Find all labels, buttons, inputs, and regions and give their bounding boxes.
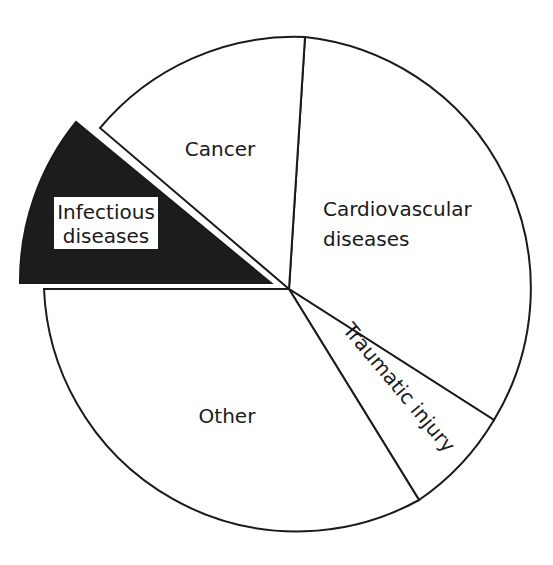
- label-other: Other: [199, 404, 257, 428]
- label-cancer: Cancer: [185, 137, 256, 161]
- label-infectious-line2: diseases: [63, 224, 149, 248]
- label-cardiovascular-line2: diseases: [323, 227, 409, 251]
- label-infectious-line1: Infectious: [57, 200, 155, 224]
- pie-chart: Cancer Cardiovascular diseases Other Tra…: [0, 0, 553, 565]
- label-cardiovascular-line1: Cardiovascular: [323, 197, 473, 221]
